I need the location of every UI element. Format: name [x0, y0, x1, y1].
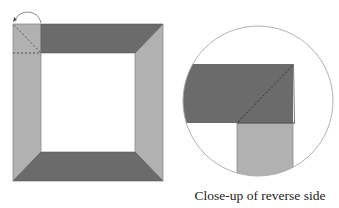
closeup-caption: Close-up of reverse side — [178, 188, 339, 204]
fold-arrow-icon — [15, 12, 41, 23]
closeup-circle — [175, 64, 295, 183]
closeup-light-band — [237, 123, 293, 183]
closeup-dark-band — [175, 64, 293, 123]
frame — [13, 12, 163, 181]
closeup-right-edge — [294, 64, 295, 123]
frame-diagram — [0, 0, 339, 208]
